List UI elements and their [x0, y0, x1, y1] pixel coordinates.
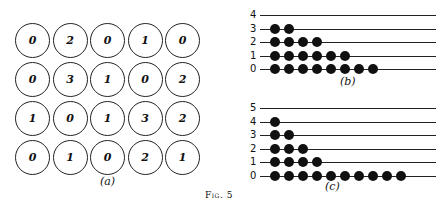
data-dot: [298, 171, 308, 181]
grid-cell: 0: [90, 140, 125, 175]
panel-a-caption: (a): [100, 175, 115, 188]
level-line: [260, 108, 436, 109]
level-label: 4: [250, 9, 256, 20]
grid-cell: 2: [53, 23, 88, 58]
data-dot: [312, 171, 322, 181]
data-dot: [270, 157, 280, 167]
data-dot: [284, 24, 294, 34]
level-row: 5: [250, 103, 446, 113]
data-dot: [326, 51, 336, 61]
panel-c-caption: (c): [325, 180, 340, 193]
data-dot: [284, 157, 294, 167]
data-dot: [270, 117, 280, 127]
data-dot: [270, 64, 280, 74]
grid-cell: 1: [128, 23, 163, 58]
grid-cell: 0: [15, 62, 50, 97]
panel-b-caption: (b): [340, 75, 356, 88]
data-dot: [326, 171, 336, 181]
level-row: 1: [250, 51, 446, 61]
grid-cell: 1: [90, 101, 125, 136]
level-row: 0: [250, 171, 446, 181]
data-dot: [312, 37, 322, 47]
data-dot: [326, 64, 336, 74]
data-dot: [312, 64, 322, 74]
level-label: 0: [250, 170, 256, 181]
level-label: 0: [250, 63, 256, 74]
data-dot: [298, 64, 308, 74]
figure-label: Fig. 5: [205, 190, 233, 200]
level-label: 1: [250, 156, 256, 167]
level-label: 2: [250, 36, 256, 47]
grid-cell: 0: [15, 23, 50, 58]
data-dot: [270, 130, 280, 140]
data-dot: [340, 64, 350, 74]
grid-cell: 1: [165, 140, 200, 175]
data-dot: [382, 171, 392, 181]
data-dot: [298, 157, 308, 167]
data-dot: [340, 171, 350, 181]
level-line: [260, 122, 436, 123]
data-dot: [284, 64, 294, 74]
data-dot: [354, 64, 364, 74]
data-dot: [284, 37, 294, 47]
grid-cell: 2: [128, 140, 163, 175]
grid-cell: 2: [165, 62, 200, 97]
level-label: 3: [250, 129, 256, 140]
level-row: 2: [250, 144, 446, 154]
level-row: 3: [250, 24, 446, 34]
data-dot: [340, 51, 350, 61]
grid-cell: 1: [53, 140, 88, 175]
data-dot: [312, 51, 322, 61]
data-dot: [298, 51, 308, 61]
level-label: 3: [250, 23, 256, 34]
grid-cell: 0: [128, 62, 163, 97]
grid-cell: 3: [53, 62, 88, 97]
data-dot: [368, 171, 378, 181]
level-label: 5: [250, 102, 256, 113]
data-dot: [284, 144, 294, 154]
data-dot: [270, 37, 280, 47]
level-row: 1: [250, 157, 446, 167]
data-dot: [368, 64, 378, 74]
data-dot: [284, 130, 294, 140]
level-label: 1: [250, 50, 256, 61]
grid-cell: 0: [15, 140, 50, 175]
data-dot: [284, 171, 294, 181]
data-dot: [270, 144, 280, 154]
grid-cell: 2: [165, 101, 200, 136]
grid-cell: 1: [15, 101, 50, 136]
grid-cell: 3: [128, 101, 163, 136]
level-row: 2: [250, 37, 446, 47]
data-dot: [270, 171, 280, 181]
level-label: 2: [250, 143, 256, 154]
level-label: 4: [250, 116, 256, 127]
data-dot: [298, 37, 308, 47]
data-dot: [312, 157, 322, 167]
grid-cell: 1: [90, 62, 125, 97]
grid-cell: 0: [90, 23, 125, 58]
level-line: [260, 15, 436, 16]
data-dot: [270, 24, 280, 34]
data-dot: [354, 171, 364, 181]
data-dot: [298, 144, 308, 154]
level-row: 4: [250, 117, 446, 127]
level-row: 0: [250, 64, 446, 74]
grid-cell: 0: [165, 23, 200, 58]
data-dot: [270, 51, 280, 61]
data-dot: [284, 51, 294, 61]
data-dot: [396, 171, 406, 181]
level-row: 4: [250, 10, 446, 20]
level-row: 3: [250, 130, 446, 140]
grid-cell: 0: [53, 101, 88, 136]
